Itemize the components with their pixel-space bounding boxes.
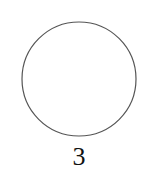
circle-label: 3 bbox=[0, 143, 142, 171]
circle-shape bbox=[22, 22, 136, 136]
